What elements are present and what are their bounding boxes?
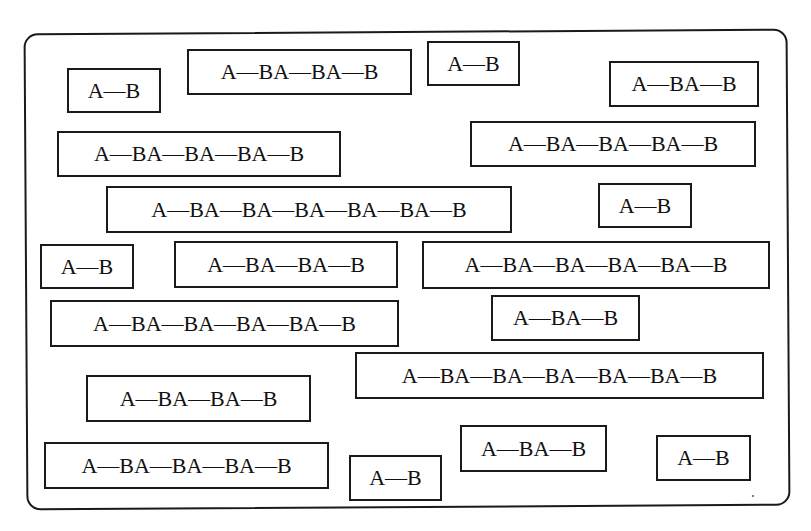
molecule-label: A—BA—BA—B [207, 254, 365, 276]
molecule-box: A—BA—BA—B [174, 241, 398, 288]
molecule-label: A—BA—BA—BA—B [94, 143, 304, 165]
molecule-label: A—BA—BA—BA—BA—BA—B [151, 199, 466, 221]
molecule-label: A—BA—BA—B [120, 388, 278, 410]
molecule-label: A—B [677, 447, 730, 469]
molecule-label: A—BA—BA—BA—BA—BA—B [402, 365, 717, 387]
molecule-box: A—B [427, 41, 520, 86]
molecule-box: A—B [67, 68, 161, 113]
molecule-label: A—B [88, 80, 141, 102]
molecule-label: A—BA—B [631, 73, 736, 95]
molecule-box: A—BA—B [491, 295, 640, 341]
molecule-box: A—BA—BA—B [187, 49, 412, 95]
molecule-label: A—BA—B [513, 307, 618, 329]
molecule-label: A—B [61, 256, 114, 278]
speck-mark [752, 495, 754, 497]
molecule-box: A—BA—BA—BA—BA—B [50, 300, 399, 347]
molecule-box: A—B [40, 244, 134, 289]
molecule-label: A—B [447, 53, 500, 75]
molecule-box: A—B [349, 455, 442, 501]
molecule-box: A—BA—BA—BA—BA—BA—B [106, 186, 512, 233]
molecule-box: A—BA—BA—BA—B [44, 442, 329, 489]
molecule-box: A—B [656, 435, 751, 481]
molecule-label: A—BA—BA—BA—BA—B [465, 254, 728, 276]
molecule-box: A—BA—BA—BA—BA—BA—B [355, 352, 764, 399]
molecule-box: A—BA—BA—BA—B [470, 121, 756, 167]
molecule-box: A—BA—BA—BA—B [57, 131, 341, 177]
molecule-box: A—BA—B [609, 61, 759, 107]
molecule-label: A—BA—B [481, 438, 586, 460]
molecule-label: A—BA—BA—BA—B [508, 133, 718, 155]
molecule-label: A—BA—BA—BA—BA—B [93, 313, 356, 335]
molecule-label: A—B [369, 467, 422, 489]
molecule-label: A—B [619, 195, 672, 217]
molecule-label: A—BA—BA—BA—B [81, 455, 291, 477]
molecule-box: A—BA—B [460, 425, 607, 472]
molecule-box: A—BA—BA—B [86, 375, 311, 422]
molecule-label: A—BA—BA—B [221, 61, 379, 83]
molecule-box: A—BA—BA—BA—BA—B [422, 241, 770, 289]
molecule-box: A—B [598, 183, 692, 228]
